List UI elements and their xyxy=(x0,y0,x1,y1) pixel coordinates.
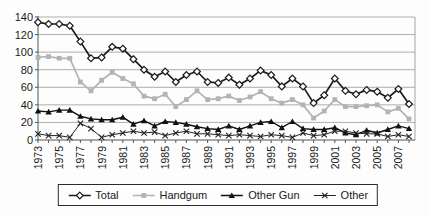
other-gun-marker xyxy=(279,125,285,131)
handgum-marker xyxy=(364,103,369,108)
series-handgum-line xyxy=(38,57,409,119)
x-tick-label: 1973 xyxy=(32,146,44,170)
legend-label-other: Other xyxy=(341,190,369,201)
total-marker xyxy=(374,88,381,95)
handgum-marker xyxy=(269,96,274,101)
legend-label-other-gun: Other Gun xyxy=(248,190,299,201)
x-tick-label: 2001 xyxy=(329,146,341,170)
handgum-marker xyxy=(78,80,83,85)
series-total xyxy=(35,19,413,108)
legend: TotalHandgumOther GunOther xyxy=(57,184,378,206)
total-marker xyxy=(45,21,52,28)
handgum-marker xyxy=(258,89,263,94)
handgum-marker xyxy=(322,109,327,114)
handgum-marker xyxy=(343,104,348,109)
handgum-marker xyxy=(354,104,359,109)
other-gun-marker xyxy=(289,118,295,124)
handgum-marker xyxy=(163,92,168,97)
handgum-marker xyxy=(205,97,210,102)
handgum-marker xyxy=(99,78,104,83)
x-tick-label: 2003 xyxy=(350,146,362,170)
x-tick-label: 2005 xyxy=(371,146,383,170)
handgum-marker xyxy=(407,117,412,122)
handgum-marker xyxy=(279,101,284,106)
handgum-marker xyxy=(226,94,231,99)
handgum-marker xyxy=(46,54,51,59)
legend-label-handgum: Handgum xyxy=(160,190,208,201)
x-tick-label: 1979 xyxy=(96,146,108,170)
x-tick-label: 1991 xyxy=(223,146,235,170)
handgum-marker xyxy=(396,106,401,111)
x-tick-label: 1989 xyxy=(202,146,214,170)
x-tick-label: 1983 xyxy=(138,146,150,170)
series-handgum xyxy=(36,54,412,121)
y-tick-label: 140 xyxy=(15,11,33,23)
total-legend-glyph xyxy=(76,192,83,199)
handgum-marker xyxy=(301,102,306,107)
total-marker xyxy=(353,91,360,98)
handgum-marker xyxy=(184,97,189,102)
total-legend-marker-icon xyxy=(67,190,91,201)
x-axis-ticks: 1973197519771979198119831985198719891991… xyxy=(32,140,409,169)
y-tick-label: 0 xyxy=(27,134,33,146)
x-tick-label: 1993 xyxy=(244,146,256,170)
legend-item-handgum: Handgum xyxy=(132,190,208,201)
other-marker xyxy=(78,121,83,126)
handgum-marker xyxy=(120,76,125,81)
legend-item-other: Other xyxy=(313,190,369,201)
handgum-marker xyxy=(195,88,200,93)
legend-item-other-gun: Other Gun xyxy=(220,190,299,201)
x-tick-label: 1975 xyxy=(53,146,65,170)
total-marker xyxy=(35,19,42,26)
other-legend-marker-icon xyxy=(313,190,337,201)
handgum-marker xyxy=(375,102,380,107)
legend-label-total: Total xyxy=(95,190,118,201)
other-gun-marker xyxy=(120,114,126,120)
handgum-marker xyxy=(142,94,147,99)
handgum-marker xyxy=(173,104,178,109)
handgum-marker xyxy=(36,55,41,60)
handgum-marker xyxy=(332,97,337,102)
x-tick-label: 2007 xyxy=(392,146,404,170)
other-gun-legend-marker-icon xyxy=(220,190,244,201)
x-tick-label: 1981 xyxy=(117,146,129,170)
y-tick-label: 40 xyxy=(21,99,33,111)
total-marker xyxy=(215,79,222,86)
x-tick-label: 1985 xyxy=(159,146,171,170)
handgum-legend-glyph xyxy=(141,193,146,198)
legend-item-total: Total xyxy=(67,190,118,201)
other-gun-marker xyxy=(395,123,401,129)
handgum-marker xyxy=(248,95,253,100)
handgum-marker xyxy=(110,70,115,75)
total-marker xyxy=(56,21,63,28)
other-gun-marker xyxy=(141,118,147,124)
handgum-marker xyxy=(131,81,136,86)
y-tick-label: 20 xyxy=(21,116,33,128)
y-tick-label: 120 xyxy=(15,29,33,41)
y-tick-label: 100 xyxy=(15,46,33,58)
handgum-marker xyxy=(216,96,221,101)
handgum-marker xyxy=(385,109,390,114)
other-marker xyxy=(88,126,93,131)
x-tick-label: 1999 xyxy=(308,146,320,170)
handgum-marker xyxy=(311,116,316,121)
handgum-marker xyxy=(57,56,62,61)
x-tick-label: 1977 xyxy=(74,146,86,170)
handgum-marker xyxy=(67,56,72,61)
handgum-marker xyxy=(89,88,94,93)
other-gun-marker xyxy=(77,113,83,119)
handgum-marker xyxy=(237,98,242,103)
y-axis-ticks: 020406080100120140 xyxy=(15,11,38,146)
y-tick-label: 60 xyxy=(21,81,33,93)
other-gun-marker xyxy=(226,123,232,129)
x-tick-label: 1987 xyxy=(180,146,192,170)
handgum-marker xyxy=(152,96,157,101)
x-tick-label: 1995 xyxy=(265,146,277,170)
handgum-legend-marker-icon xyxy=(132,190,156,201)
line-chart: 0204060801001201401973197519771979198119… xyxy=(0,0,429,216)
x-tick-label: 1997 xyxy=(286,146,298,170)
y-tick-label: 80 xyxy=(21,64,33,76)
handgum-marker xyxy=(290,97,295,102)
